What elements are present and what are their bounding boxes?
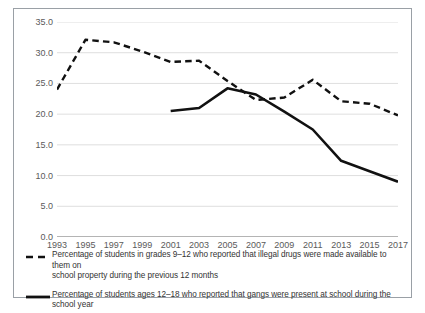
chart-legend: Percentage of students in grades 9–12 wh… — [26, 250, 406, 313]
series-line-drugs-available — [57, 40, 398, 116]
chart-canvas — [57, 22, 398, 237]
legend-line-2: school property during the previous 12 m… — [52, 271, 218, 280]
x-tick-label: 2017 — [381, 241, 415, 250]
gridlines — [57, 22, 398, 237]
y-tick-label: 5.0 — [17, 202, 53, 211]
plot-area — [57, 22, 398, 237]
dashed-line-swatch-icon — [26, 250, 52, 259]
legend-label-drugs-available: Percentage of students in grades 9–12 wh… — [52, 250, 406, 282]
y-tick-label: 15.0 — [17, 141, 53, 150]
legend-line-1: Percentage of students in grades 9–12 wh… — [52, 250, 387, 270]
solid-line-swatch-icon — [26, 290, 52, 299]
legend-label-gangs-present: Percentage of students ages 12–18 who re… — [52, 290, 406, 311]
y-tick-label: 30.0 — [17, 49, 53, 58]
y-tick-label: 35.0 — [17, 18, 53, 27]
legend-item-gangs-present: Percentage of students ages 12–18 who re… — [26, 290, 406, 311]
legend-item-drugs-available: Percentage of students in grades 9–12 wh… — [26, 250, 406, 282]
y-tick-label: 20.0 — [17, 110, 53, 119]
y-tick-label: 10.0 — [17, 172, 53, 181]
y-tick-label: 25.0 — [17, 79, 53, 88]
